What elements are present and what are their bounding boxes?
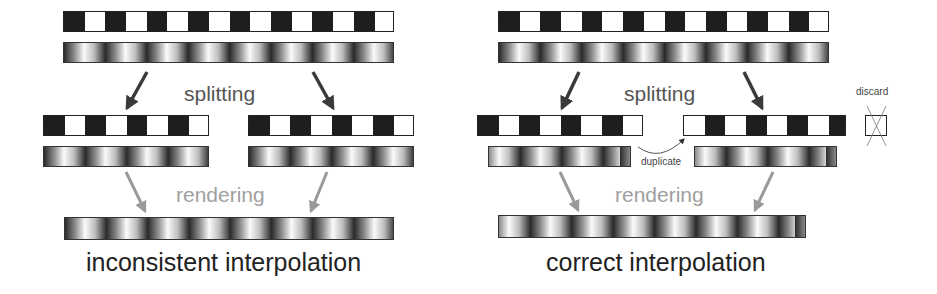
right-split-arrow-a-icon	[562, 72, 579, 108]
arrow-overlay	[0, 0, 937, 294]
discard-cross-icon	[867, 106, 886, 146]
right-split-arrow-b-icon	[744, 72, 762, 108]
right-render-arrow-b-icon	[755, 172, 773, 210]
left-render-arrow-a-icon	[126, 172, 145, 211]
left-split-arrow-a-icon	[127, 72, 147, 108]
left-split-arrow-b-icon	[313, 72, 333, 108]
left-render-arrow-b-icon	[311, 172, 327, 211]
right-render-arrow-a-icon	[560, 172, 578, 210]
duplicate-arrow-icon	[638, 139, 684, 153]
